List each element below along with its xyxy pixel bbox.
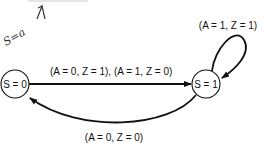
transition-s0-to-s1: (A = 0, Z = 1), (A = 1, Z = 0) bbox=[29, 66, 191, 84]
transition-s1-to-s0: (A = 0, Z = 0) bbox=[30, 95, 196, 143]
state-diagram: S=a S = 0 S = 1 (A = 0, Z = 1), (A = 1, … bbox=[0, 0, 272, 145]
handwritten-text: S=a bbox=[1, 26, 28, 49]
transition-label: (A = 0, Z = 0) bbox=[85, 132, 143, 143]
transition-label: (A = 0, Z = 1), (A = 1, Z = 0) bbox=[50, 66, 172, 77]
transition-arrow bbox=[30, 95, 196, 122]
state-s0: S = 0 bbox=[1, 70, 29, 98]
up-arrow-icon bbox=[37, 6, 45, 19]
transition-label: (A = 1, Z = 1) bbox=[199, 20, 257, 31]
handwritten-annotation: S=a bbox=[1, 6, 45, 49]
clipped-text-fragment bbox=[28, 0, 88, 2]
self-loop-arrow bbox=[212, 35, 246, 78]
state-s0-label: S = 0 bbox=[3, 79, 27, 90]
transition-s1-self-loop: (A = 1, Z = 1) bbox=[199, 20, 257, 78]
state-s1-label: S = 1 bbox=[194, 79, 218, 90]
state-s1: S = 1 bbox=[192, 70, 220, 98]
